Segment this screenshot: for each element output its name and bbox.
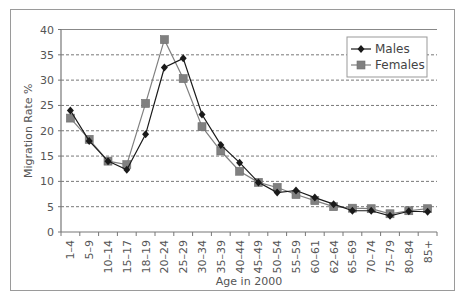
legend: MalesFemales xyxy=(347,37,427,77)
x-tick-label: 1–4 xyxy=(64,240,77,260)
x-tick-label: 45–49 xyxy=(252,240,265,274)
y-tick-label: 20 xyxy=(40,125,54,138)
line-chart: 05101520253035401–45–910–1415–1718–1920–… xyxy=(0,0,464,305)
y-axis-label: Migration Rate % xyxy=(22,83,35,178)
x-tick-label: 25–29 xyxy=(177,240,190,274)
y-tick-label: 35 xyxy=(40,49,54,62)
x-tick-label: 85+ xyxy=(422,240,435,263)
x-tick-label: 60–61 xyxy=(309,240,322,274)
y-tick-label: 0 xyxy=(47,226,54,239)
x-tick-label: 50–54 xyxy=(271,240,284,274)
x-axis-label: Age in 2000 xyxy=(216,275,282,288)
y-tick-label: 40 xyxy=(40,24,54,37)
x-tick-label: 5–9 xyxy=(83,240,96,260)
legend-females: Females xyxy=(375,58,425,72)
x-tick-label: 18–19 xyxy=(140,240,153,274)
x-tick-label: 30–34 xyxy=(196,240,209,274)
y-tick-label: 10 xyxy=(40,175,54,188)
x-tick-label: 80–84 xyxy=(403,240,416,274)
y-tick-label: 30 xyxy=(40,74,54,87)
x-tick-label: 65–69 xyxy=(346,240,359,274)
x-tick-label: 40–44 xyxy=(234,240,247,274)
y-tick-label: 15 xyxy=(40,150,54,163)
x-tick-label: 75–79 xyxy=(384,240,397,274)
x-tick-label: 10–14 xyxy=(102,240,115,274)
y-tick-label: 5 xyxy=(47,201,54,214)
x-tick-label: 55–59 xyxy=(290,240,303,274)
x-tick-label: 20–24 xyxy=(158,240,171,274)
x-tick-label: 35–39 xyxy=(215,240,228,274)
series-males xyxy=(67,54,431,219)
x-tick-label: 15–17 xyxy=(121,240,134,274)
x-tick-label: 70–74 xyxy=(365,240,378,274)
legend-males: Males xyxy=(375,42,410,56)
x-tick-label: 62–64 xyxy=(328,240,341,274)
y-tick-label: 25 xyxy=(40,99,54,112)
